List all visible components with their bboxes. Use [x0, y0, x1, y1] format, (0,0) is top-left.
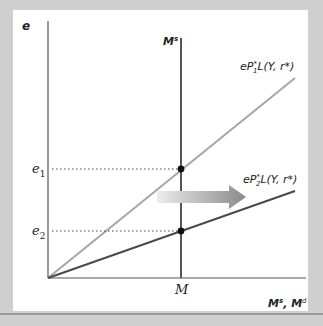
demand-curve-1-label: eP*1L(Y, r*) — [240, 60, 294, 75]
money-market-diagram: e Ms eP*1L(Y, r*) eP*2L(Y, r*) e1 e2 M M… — [0, 0, 323, 326]
shift-right-arrow — [157, 185, 246, 209]
e1-label: e1 — [32, 161, 45, 179]
equilibrium-point-1 — [178, 166, 185, 173]
y-axis-label: e — [22, 19, 30, 33]
money-quantity-label: M — [174, 282, 189, 297]
equilibrium-point-2 — [178, 228, 185, 235]
money-supply-label: Ms — [163, 35, 178, 48]
x-axis-label: Ms, Md — [268, 297, 307, 310]
e2-label: e2 — [32, 223, 45, 241]
demand-curve-2-label: eP*2L(Y, r*) — [243, 173, 297, 188]
demand-curve-2 — [48, 191, 295, 278]
